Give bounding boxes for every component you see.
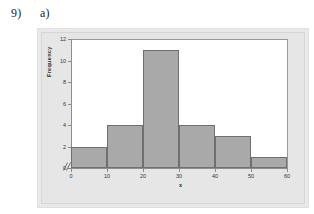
y-tick-label: 10 (38, 58, 66, 64)
x-tick-label: 20 (140, 173, 146, 179)
question-number: 9) (11, 6, 21, 21)
histogram-plot: 024681012 0102030405060 Frequency x (38, 29, 310, 209)
y-axis-title: Frequency (46, 46, 52, 77)
x-tick-label: 40 (212, 173, 218, 179)
y-tick-label: 8 (38, 79, 66, 85)
figure-panel: 024681012 0102030405060 Frequency x (37, 28, 309, 208)
x-tick-mark (251, 169, 252, 172)
histogram-bar (107, 125, 143, 168)
x-tick-mark (215, 169, 216, 172)
histogram-bar (143, 50, 179, 168)
x-tick-mark (143, 169, 144, 172)
y-tick-mark (68, 125, 71, 126)
x-tick-mark (179, 169, 180, 172)
x-tick-label: 60 (284, 173, 290, 179)
x-tick-mark (107, 169, 108, 172)
y-tick-mark (68, 61, 71, 62)
x-axis-title: x (179, 182, 182, 188)
question-header: 9) a) (0, 6, 314, 28)
histogram-bar (179, 125, 215, 168)
x-tick-label: 0 (69, 173, 72, 179)
y-tick-label: 2 (38, 144, 66, 150)
x-tick-mark (287, 169, 288, 172)
histogram-bar (215, 136, 251, 168)
x-tick-label: 10 (104, 173, 110, 179)
y-tick-mark (68, 104, 71, 105)
y-tick-label: 6 (38, 101, 66, 107)
bars-layer (71, 39, 287, 168)
y-tick-label: 12 (38, 36, 66, 42)
y-tick-mark (68, 82, 71, 83)
axis-break-icon (61, 161, 73, 172)
histogram-bar (71, 147, 107, 169)
x-tick-label: 30 (176, 173, 182, 179)
y-tick-mark (68, 39, 71, 40)
y-tick-label: 4 (38, 122, 66, 128)
x-tick-label: 50 (248, 173, 254, 179)
y-tick-mark (68, 147, 71, 148)
question-part-label: a) (40, 6, 50, 21)
histogram-bar (251, 157, 287, 168)
